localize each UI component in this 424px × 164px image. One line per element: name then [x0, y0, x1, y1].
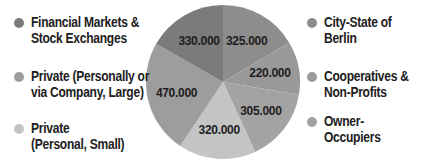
legend-label: Owner-Occupiers [324, 113, 410, 145]
legend-item-private-large: Private (Personally or via Company, Larg… [14, 68, 168, 100]
legend-dot-icon [14, 124, 24, 134]
legend-item-private-small: Private (Personal, Small) [14, 120, 140, 152]
legend-dot-icon [14, 72, 24, 82]
legend-label: Private (Personal, Small) [31, 120, 124, 152]
legend-label: City-State of Berlin [324, 14, 410, 46]
legend-dot-icon [307, 72, 317, 82]
legend-item-owner-occupiers: Owner-Occupiers [307, 113, 424, 145]
legend-item-cooperatives: Cooperatives & Non-Profits [307, 68, 423, 100]
slice-value-label: 220.000 [249, 66, 291, 80]
legend-dot-icon [14, 18, 24, 28]
slice-value-label: 320.000 [199, 123, 241, 137]
legend-label: Private (Personally or via Company, Larg… [31, 68, 149, 100]
legend-label: Cooperatives & Non-Profits [324, 68, 409, 100]
slice-value-label: 305.000 [240, 104, 282, 118]
legend-item-city-state-berlin: City-State of Berlin [307, 14, 424, 46]
slice-value-label: 325.000 [226, 34, 268, 48]
legend-item-financial-markets: Financial Markets & Stock Exchanges [14, 14, 157, 46]
slice-value-label: 330.000 [178, 34, 220, 48]
legend-dot-icon [307, 18, 317, 28]
legend-label: Financial Markets & Stock Exchanges [31, 14, 139, 46]
legend-dot-icon [307, 117, 317, 127]
